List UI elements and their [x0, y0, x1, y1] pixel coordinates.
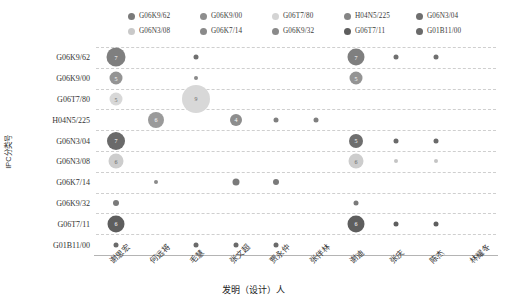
bubble-point[interactable]: 7: [107, 48, 126, 67]
legend-swatch-circle-icon: [200, 13, 207, 20]
bubble-value-label: 5: [355, 138, 358, 144]
y-axis-tick-label: G06N3/08: [4, 157, 90, 166]
legend-item-label: G06T7/11: [355, 27, 385, 35]
bubble-point[interactable]: [354, 201, 359, 206]
bubble-value-label: 7: [355, 54, 358, 60]
bubble-value-label: 6: [355, 158, 358, 164]
legend-swatch-circle-icon: [344, 13, 351, 20]
legend-item[interactable]: H04N5/225: [344, 12, 390, 20]
y-axis-tick-label: G06N3/04: [4, 136, 90, 145]
bubble-point[interactable]: 5: [110, 72, 123, 85]
bubble-value-label: 5: [115, 75, 118, 81]
bubble-point[interactable]: [434, 138, 439, 143]
y-axis-tick-label: G06K9/62: [4, 53, 90, 62]
legend-item-label: G06K9/32: [283, 27, 314, 35]
legend-item-label: G06K7/14: [211, 27, 242, 35]
legend-swatch-circle-icon: [272, 13, 279, 20]
bubble-value-label: 6: [155, 117, 158, 123]
bubble-value-label: 4: [235, 117, 238, 123]
bubble-point[interactable]: [314, 117, 319, 122]
legend-item[interactable]: G06K9/62: [128, 12, 170, 20]
bubble-value-label: 5: [355, 75, 358, 81]
y-axis-tick-label: G01B11/00: [4, 240, 90, 249]
gridline: [96, 89, 496, 90]
bubble-point[interactable]: [434, 221, 439, 226]
gridline: [96, 172, 496, 173]
legend-item[interactable]: G06N3/04: [416, 12, 458, 20]
gridline: [96, 193, 496, 194]
bubble-point[interactable]: [113, 200, 119, 206]
bubble-point[interactable]: [434, 55, 439, 60]
bubble-point[interactable]: [274, 117, 279, 122]
bubble-value-label: 6: [115, 221, 118, 227]
bubble-point[interactable]: 5: [350, 72, 363, 85]
bubble-point[interactable]: [394, 138, 399, 143]
legend-swatch-circle-icon: [272, 28, 279, 35]
bubble-point[interactable]: [194, 55, 199, 60]
bubble-point[interactable]: 4: [230, 114, 242, 126]
legend-item[interactable]: G01B11/00: [416, 27, 461, 35]
bubble-point[interactable]: [233, 179, 240, 186]
bubble-value-label: 7: [115, 54, 118, 60]
legend-swatch-circle-icon: [344, 28, 351, 35]
bubble-point[interactable]: [434, 159, 438, 163]
y-axis-tick-label: G06K7/14: [4, 178, 90, 187]
chart-legend: G06K9/62G06K9/00G06T7/80H04N5/225G06N3/0…: [0, 0, 506, 44]
bubble-value-label: 6: [355, 221, 358, 227]
legend-swatch-circle-icon: [416, 13, 423, 20]
legend-swatch-circle-icon: [416, 28, 423, 35]
bubble-value-label: 7: [115, 138, 118, 144]
legend-item[interactable]: G06N3/08: [128, 27, 170, 35]
legend-item[interactable]: G06T7/80: [272, 12, 313, 20]
bubble-chart-figure: G06K9/62G06K9/00G06T7/80H04N5/225G06N3/0…: [0, 0, 506, 306]
legend-item[interactable]: G06K7/14: [200, 27, 242, 35]
legend-item-label: G06K9/62: [139, 12, 170, 20]
legend-swatch-circle-icon: [128, 13, 135, 20]
bubble-value-label: 9: [195, 96, 198, 102]
legend-item[interactable]: G06T7/11: [344, 27, 385, 35]
gridline: [96, 109, 496, 110]
legend-swatch-circle-icon: [128, 28, 135, 35]
bubble-point[interactable]: 6: [349, 154, 364, 169]
gridline: [96, 213, 496, 214]
bubble-point[interactable]: 9: [182, 85, 210, 113]
bubble-point[interactable]: 6: [109, 154, 124, 169]
gridline: [96, 47, 496, 48]
plot-area: 77555964756666: [96, 47, 496, 255]
gridline: [96, 130, 496, 131]
bubble-point[interactable]: [273, 179, 279, 185]
y-axis-tick-label: G06T7/80: [4, 95, 90, 104]
y-axis-tick-label: G06T7/11: [4, 219, 90, 228]
legend-item[interactable]: G06K9/32: [272, 27, 314, 35]
bubble-point[interactable]: [194, 76, 198, 80]
y-axis-tick-label: G06K9/00: [4, 74, 90, 83]
bubble-point[interactable]: 7: [348, 49, 365, 66]
legend-item-label: G06N3/08: [139, 27, 170, 35]
y-axis-tick-label: G06K9/32: [4, 199, 90, 208]
bubble-point[interactable]: [394, 159, 398, 163]
bubble-value-label: 5: [115, 96, 118, 102]
gridline: [96, 68, 496, 69]
bubble-point[interactable]: [154, 180, 158, 184]
bubble-point[interactable]: 5: [349, 134, 363, 148]
gridline: [96, 234, 496, 235]
legend-item-label: G01B11/00: [427, 27, 461, 35]
legend-item-label: G06N3/04: [427, 12, 458, 20]
bubble-point[interactable]: 6: [148, 112, 164, 128]
bubble-point[interactable]: 6: [108, 215, 125, 232]
legend-item-label: H04N5/225: [355, 12, 390, 20]
legend-item-label: G06T7/80: [283, 12, 313, 20]
bubble-point[interactable]: 6: [348, 215, 365, 232]
bubble-point[interactable]: [394, 221, 399, 226]
legend-item[interactable]: G06K9/00: [200, 12, 242, 20]
bubble-point[interactable]: [394, 55, 399, 60]
gridline: [96, 151, 496, 152]
bubble-point[interactable]: 5: [110, 93, 123, 106]
legend-swatch-circle-icon: [200, 28, 207, 35]
x-axis-title: 发明（设计）人: [0, 283, 506, 296]
bubble-value-label: 6: [115, 158, 118, 164]
y-axis-tick-label: H04N5/225: [4, 115, 90, 124]
bubble-point[interactable]: 7: [107, 132, 125, 150]
legend-item-label: G06K9/00: [211, 12, 242, 20]
